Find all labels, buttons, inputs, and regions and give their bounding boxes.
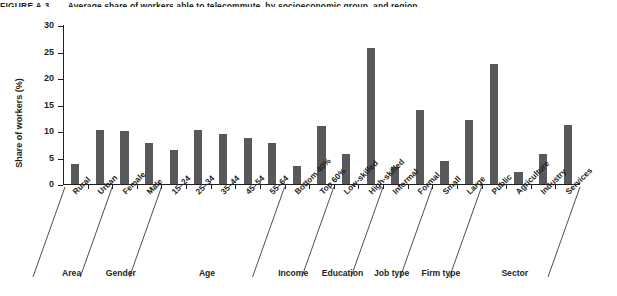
bar xyxy=(268,143,276,184)
bar xyxy=(145,143,153,184)
group-label: Income xyxy=(278,268,308,278)
bar xyxy=(465,120,473,184)
y-tick-label: 15 xyxy=(44,100,54,110)
group-label: Area xyxy=(62,268,81,278)
bar xyxy=(293,166,301,183)
y-tick-mark xyxy=(58,185,63,186)
figure-title: FIGURE A.3 Average share of workers able… xyxy=(0,0,617,7)
figure-number: FIGURE A.3 xyxy=(0,1,49,7)
bar xyxy=(120,131,128,184)
figure-caption: Average share of workers able to telecom… xyxy=(68,1,418,7)
bar xyxy=(440,161,448,184)
bar xyxy=(194,130,202,184)
y-tick-label: 20 xyxy=(44,73,54,83)
bar xyxy=(219,134,227,184)
bar-chart: Share of workers (%) 051015202530 RuralU… xyxy=(0,8,617,296)
group-label: Sector xyxy=(501,268,528,278)
bar xyxy=(96,130,104,183)
y-tick-label: 10 xyxy=(44,126,54,136)
y-tick-label: 25 xyxy=(44,47,54,57)
group-label: Gender xyxy=(106,268,136,278)
y-tick-label: 30 xyxy=(44,20,54,30)
x-axis-category-labels: RuralUrbanFemaleMale15–2425–3435–4445–54… xyxy=(63,188,617,248)
y-tick-label: 0 xyxy=(49,179,54,189)
group-label: Job type xyxy=(374,268,409,278)
y-tick-label: 5 xyxy=(49,153,54,163)
group-label: Education xyxy=(322,268,364,278)
group-label: Firm type xyxy=(422,268,461,278)
bar xyxy=(244,138,252,184)
group-label: Age xyxy=(199,268,215,278)
bar xyxy=(170,150,178,183)
y-axis-title: Share of workers (%) xyxy=(14,68,24,178)
bar xyxy=(490,64,498,184)
